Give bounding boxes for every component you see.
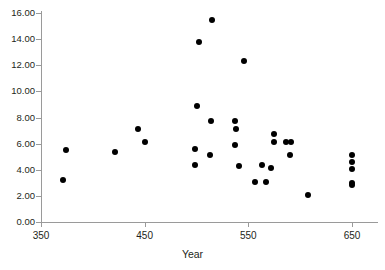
y-axis-tick-label: 12.00 bbox=[3, 60, 35, 70]
data-point bbox=[252, 179, 258, 185]
x-axis-tick bbox=[41, 222, 42, 227]
x-axis-tick-label: 350 bbox=[21, 230, 61, 241]
data-point bbox=[60, 177, 66, 183]
y-axis-tick bbox=[36, 39, 41, 40]
y-axis-line bbox=[41, 11, 42, 223]
data-point bbox=[194, 103, 200, 109]
data-point bbox=[288, 139, 294, 145]
data-point bbox=[271, 139, 277, 145]
x-axis-tick bbox=[352, 222, 353, 227]
y-axis-tick bbox=[36, 91, 41, 92]
data-point bbox=[63, 147, 69, 153]
y-axis-tick-label: 10.00 bbox=[3, 86, 35, 96]
x-axis-tick bbox=[145, 222, 146, 227]
data-point bbox=[232, 142, 238, 148]
y-axis-tick bbox=[36, 144, 41, 145]
data-point bbox=[142, 139, 148, 145]
y-axis-tick-label: 16.00 bbox=[3, 8, 35, 18]
data-point bbox=[112, 149, 118, 155]
y-axis-tick bbox=[36, 118, 41, 119]
data-point bbox=[305, 192, 311, 198]
data-point bbox=[263, 179, 269, 185]
x-axis-tick-label: 550 bbox=[228, 230, 268, 241]
y-axis-tick bbox=[36, 65, 41, 66]
scatter-chart: 0.002.004.006.008.0010.0012.0014.0016.00… bbox=[0, 0, 385, 270]
data-point bbox=[208, 118, 214, 124]
data-point bbox=[241, 58, 247, 64]
data-point bbox=[207, 152, 213, 158]
y-axis-tick-label: 6.00 bbox=[3, 139, 35, 149]
y-axis-tick bbox=[36, 196, 41, 197]
y-axis-tick-label: 8.00 bbox=[3, 113, 35, 123]
data-point bbox=[268, 165, 274, 171]
data-point bbox=[233, 126, 239, 132]
data-point bbox=[349, 166, 355, 172]
data-point bbox=[192, 162, 198, 168]
y-axis-tick-label: 14.00 bbox=[3, 34, 35, 44]
y-axis-tick-label: 0.00 bbox=[3, 217, 35, 227]
data-point bbox=[287, 152, 293, 158]
y-axis-tick-label: 4.00 bbox=[3, 165, 35, 175]
data-point bbox=[349, 159, 355, 165]
data-point bbox=[232, 118, 238, 124]
data-point bbox=[259, 162, 265, 168]
data-point bbox=[271, 131, 277, 137]
y-axis-tick bbox=[36, 13, 41, 14]
x-axis-tick bbox=[248, 222, 249, 227]
data-point bbox=[192, 146, 198, 152]
data-point bbox=[135, 126, 141, 132]
x-axis-tick-label: 650 bbox=[332, 230, 372, 241]
data-point bbox=[196, 39, 202, 45]
data-point bbox=[349, 182, 355, 188]
data-point bbox=[349, 152, 355, 158]
data-point bbox=[209, 17, 215, 23]
data-point bbox=[236, 163, 242, 169]
x-axis-tick-label: 450 bbox=[125, 230, 165, 241]
x-axis-line bbox=[41, 222, 378, 223]
x-axis-title: Year bbox=[0, 248, 385, 260]
y-axis-tick bbox=[36, 170, 41, 171]
y-axis-tick-label: 2.00 bbox=[3, 191, 35, 201]
